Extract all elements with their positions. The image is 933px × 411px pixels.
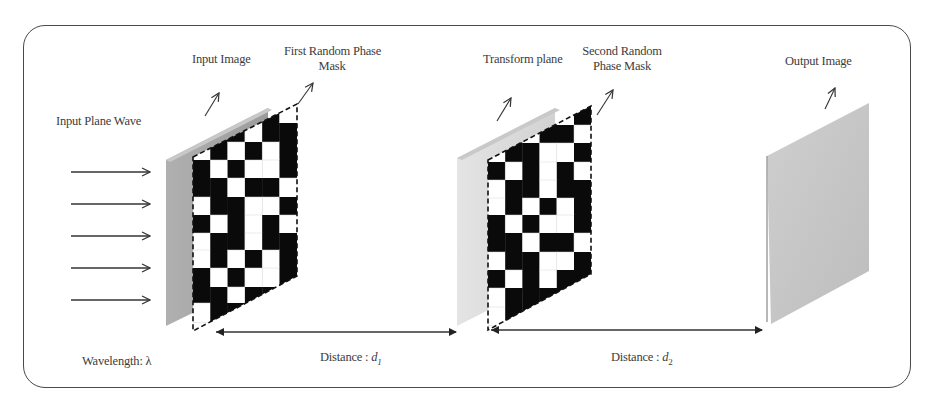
mask-cell: [522, 143, 540, 162]
mask-cell: [280, 123, 298, 142]
first-random-phase-mask: [193, 103, 297, 322]
mask-cell: [210, 215, 228, 233]
mask-cell: [488, 233, 506, 252]
mask-cell: [557, 162, 575, 180]
mask-cell: [540, 288, 558, 307]
mask-cell: [488, 107, 506, 125]
mask-cell: [193, 287, 211, 303]
mask-cell: [522, 288, 540, 307]
mask-cell: [574, 288, 592, 307]
mask-cell: [574, 270, 592, 288]
mask-cell: [522, 270, 540, 288]
second-mask-label: Second Random Phase Mask: [580, 44, 664, 74]
mask-cell: [245, 250, 263, 268]
mask-cell: [557, 143, 575, 162]
mask-cell: [210, 103, 228, 123]
mask-cell: [488, 288, 506, 307]
mask-cell: [505, 233, 523, 252]
mask-cell: [557, 233, 575, 252]
mask-cell: [505, 180, 523, 198]
mask-cell: [557, 198, 575, 215]
mask-cell: [210, 178, 228, 197]
mask-cell: [245, 233, 263, 250]
mask-cell: [522, 162, 540, 180]
mask-cell: [540, 143, 558, 162]
mask-cell: [262, 287, 280, 303]
mask-cell: [280, 233, 298, 250]
mask-cell: [210, 233, 228, 250]
mask-cell: [488, 162, 506, 180]
wavelength-symbol: λ: [146, 354, 152, 368]
second-mask-label-line2: Phase Mask: [580, 59, 664, 74]
mask-cell: [280, 287, 298, 303]
mask-cell: [262, 123, 280, 142]
mask-cell: [574, 233, 592, 252]
mask-cell: [228, 103, 246, 123]
mask-cell: [540, 215, 558, 233]
mask-cell: [193, 303, 211, 322]
mask-cell: [522, 180, 540, 198]
mask-cell: [557, 215, 575, 233]
mask-cell: [210, 197, 228, 215]
distance-d2-prefix: Distance :: [611, 350, 662, 364]
mask-cell: [228, 215, 246, 233]
mask-cell: [193, 178, 211, 197]
mask-cell: [228, 233, 246, 250]
mask-cell: [557, 180, 575, 198]
mask-cell: [574, 162, 592, 180]
first-mask-label-line1: First Random Phase: [284, 44, 380, 59]
mask-cell: [245, 142, 263, 160]
mask-cell: [245, 197, 263, 215]
mask-cell: [540, 307, 558, 325]
mask-cell: [193, 103, 211, 123]
distance-d1-prefix: Distance :: [320, 350, 371, 364]
label-pointer-arrows: [205, 83, 835, 121]
mask-cell: [557, 270, 575, 288]
output-image-label: Output Image: [785, 54, 852, 69]
mask-cell: [262, 303, 280, 322]
mask-cell: [228, 268, 246, 287]
mask-cell: [210, 287, 228, 303]
mask-cell: [574, 307, 592, 325]
mask-cell: [262, 160, 280, 178]
mask-cell: [280, 178, 298, 197]
mask-cell: [193, 197, 211, 215]
mask-cell: [574, 198, 592, 215]
mask-cell: [228, 287, 246, 303]
mask-cell: [245, 268, 263, 287]
mask-cell: [540, 233, 558, 252]
mask-cell: [557, 252, 575, 270]
mask-cell: [210, 268, 228, 287]
mask-cell: [280, 142, 298, 160]
distance-d2-arrow: [491, 326, 762, 334]
transform-plane-label: Transform plane: [483, 52, 563, 67]
mask-cell: [522, 252, 540, 270]
mask-cell: [574, 252, 592, 270]
input-plane-wave-label: Input Plane Wave: [56, 114, 141, 129]
mask-cell: [505, 215, 523, 233]
mask-cell: [522, 215, 540, 233]
mask-cell: [505, 198, 523, 215]
input-image-label: Input Image: [192, 52, 251, 67]
mask-cell: [262, 233, 280, 250]
input-plane-wave-arrows: [71, 172, 150, 300]
mask-cell: [245, 303, 263, 322]
mask-cell: [262, 142, 280, 160]
mask-cell: [228, 250, 246, 268]
wavelength-prefix: Wavelength:: [82, 354, 146, 368]
mask-cell: [210, 250, 228, 268]
mask-cell: [488, 252, 506, 270]
mask-cell: [574, 143, 592, 162]
mask-cell: [540, 162, 558, 180]
mask-cell: [488, 215, 506, 233]
mask-cell: [574, 180, 592, 198]
second-mask-label-line1: Second Random: [580, 44, 664, 59]
wavelength-label: Wavelength: λ: [82, 354, 151, 369]
mask-cell: [488, 198, 506, 215]
mask-cell: [228, 160, 246, 178]
mask-cell: [557, 307, 575, 325]
mask-cell: [522, 198, 540, 215]
mask-cell: [574, 125, 592, 143]
mask-cell: [522, 307, 540, 325]
optical-setup-diagram: Input Image First Random Phase Mask Inpu…: [0, 0, 933, 411]
